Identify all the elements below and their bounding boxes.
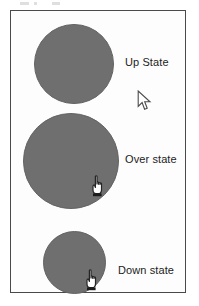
diagram-frame: Up State Over state Down state xyxy=(10,10,186,293)
down-state-label: Down state xyxy=(118,264,174,277)
up-state-circle[interactable] xyxy=(34,24,114,104)
over-state-label: Over state xyxy=(125,153,177,166)
clipped-glyph-artifact xyxy=(20,2,29,5)
clipped-glyph-artifact xyxy=(34,2,37,5)
up-state-label: Up State xyxy=(125,56,169,69)
clipped-glyph-artifact xyxy=(52,2,60,5)
pointing-hand-cursor xyxy=(90,175,106,197)
pointing-hand-cursor xyxy=(84,269,100,291)
arrow-cursor xyxy=(137,90,152,111)
clipped-text-artifacts xyxy=(0,0,199,7)
